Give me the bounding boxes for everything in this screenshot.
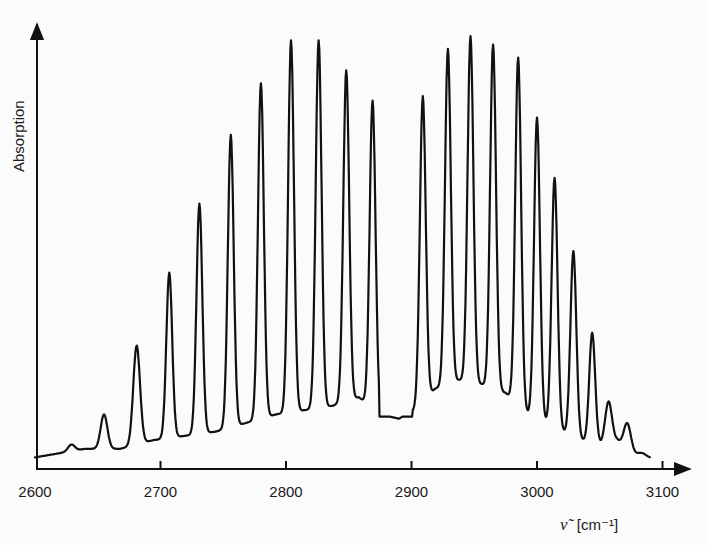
x-axis-tick-labels: 260027002800290030003100 xyxy=(18,483,679,500)
x-tick-label: 3100 xyxy=(646,483,679,500)
y-axis-label: Absorption xyxy=(10,100,27,172)
x-tick-label: 2800 xyxy=(269,483,302,500)
spectrum-line xyxy=(35,36,650,457)
x-tick-label: 2600 xyxy=(18,483,51,500)
x-tick-label: 3000 xyxy=(520,483,553,500)
x-axis-label-symbol: ν̃ xyxy=(560,515,575,534)
ir-absorption-spectrum-chart: 260027002800290030003100 Absorption ν̃ [… xyxy=(0,0,708,545)
x-tick-label: 2900 xyxy=(395,483,428,500)
x-axis-label: ν̃ [cm⁻¹] xyxy=(560,515,618,534)
x-axis-label-unit: [cm⁻¹] xyxy=(577,516,618,533)
x-tick-label: 2700 xyxy=(144,483,177,500)
x-axis-ticks xyxy=(161,461,663,469)
